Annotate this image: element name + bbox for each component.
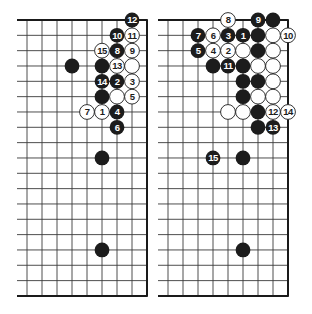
diagram-left: 121011158913142357146: [17, 13, 148, 296]
black-stone: [206, 59, 221, 74]
stone-circle: [251, 74, 266, 89]
white-stone: [266, 28, 281, 43]
black-stone: [95, 89, 110, 104]
stone-circle: [95, 243, 110, 258]
move-number: 12: [268, 106, 278, 117]
move-number: 7: [85, 106, 90, 117]
move-number: 14: [97, 76, 108, 87]
black-stone: [95, 59, 110, 74]
move-number: 3: [130, 76, 135, 87]
black-stone: [251, 28, 266, 43]
white-stone: 5: [125, 89, 140, 104]
stone-circle: [266, 89, 281, 104]
black-stone: 7: [191, 28, 206, 43]
black-stone: 2: [110, 74, 125, 89]
black-stone: [236, 89, 251, 104]
black-stone: 1: [236, 28, 251, 43]
white-stone: 13: [110, 59, 125, 74]
stone-circle: [236, 59, 251, 74]
white-stone: 15: [95, 43, 110, 58]
black-stone: 15: [206, 151, 221, 166]
stone-circle: [95, 59, 110, 74]
move-number: 9: [256, 14, 261, 25]
white-stone: [251, 89, 266, 104]
black-stone: [266, 13, 281, 28]
stone-circle: [266, 74, 281, 89]
move-number: 6: [211, 30, 216, 41]
black-stone: 5: [191, 43, 206, 58]
stone-circle: [236, 243, 251, 258]
stone-circle: [95, 151, 110, 166]
stone-circle: [236, 105, 251, 120]
white-stone: 1: [95, 105, 110, 120]
white-stone: 4: [206, 43, 221, 58]
black-stone: [251, 120, 266, 135]
go-board-figure: 121011158913142357146 897631105421112141…: [0, 0, 312, 314]
move-number: 15: [208, 152, 219, 163]
move-number: 3: [226, 30, 231, 41]
stone-circle: [251, 105, 266, 120]
black-stone: [236, 243, 251, 258]
black-stone: [95, 151, 110, 166]
white-stone: [110, 89, 125, 104]
diagram-right: 897631105421112141315: [158, 13, 295, 296]
black-stone: 14: [95, 74, 110, 89]
black-stone: [236, 74, 251, 89]
black-stone: [95, 243, 110, 258]
move-number: 2: [115, 76, 120, 87]
stone-circle: [266, 13, 281, 28]
black-stone: 13: [266, 120, 281, 135]
move-number: 13: [112, 60, 122, 71]
black-stone: [65, 59, 80, 74]
white-stone: 2: [221, 43, 236, 58]
black-stone: 9: [251, 13, 266, 28]
stone-circle: [251, 120, 266, 135]
stone-circle: [251, 28, 266, 43]
white-stone: [125, 59, 140, 74]
white-stone: 9: [125, 43, 140, 58]
black-stone: 6: [110, 120, 125, 135]
stone-circle: [236, 151, 251, 166]
black-stone: 10: [110, 28, 125, 43]
black-stone: 3: [221, 28, 236, 43]
black-stone: [251, 74, 266, 89]
stone-circle: [236, 43, 251, 58]
stone-circle: [110, 89, 125, 104]
stone-circle: [125, 59, 140, 74]
black-stone: 12: [125, 13, 140, 28]
black-stone: [251, 105, 266, 120]
stone-circle: [266, 43, 281, 58]
white-stone: 12: [266, 105, 281, 120]
white-stone: 11: [125, 28, 140, 43]
white-stone: 7: [80, 105, 95, 120]
white-stone: 3: [125, 74, 140, 89]
stone-circle: [221, 105, 236, 120]
go-diagrams: 121011158913142357146 897631105421112141…: [0, 0, 312, 314]
white-stone: 6: [206, 28, 221, 43]
move-number: 13: [268, 122, 278, 133]
white-stone: 14: [281, 105, 296, 120]
white-stone: [251, 59, 266, 74]
white-stone: 8: [221, 13, 236, 28]
white-stone: 10: [281, 28, 296, 43]
stone-circle: [251, 59, 266, 74]
move-number: 12: [127, 14, 137, 25]
white-stone: [266, 43, 281, 58]
move-number: 8: [226, 14, 231, 25]
black-stone: 8: [110, 43, 125, 58]
black-stone: 11: [221, 59, 236, 74]
stone-circle: [206, 59, 221, 74]
stone-circle: [236, 74, 251, 89]
move-number: 7: [196, 30, 201, 41]
move-number: 9: [130, 45, 135, 56]
stone-circle: [65, 59, 80, 74]
stone-circle: [95, 89, 110, 104]
move-number: 14: [283, 106, 294, 117]
black-stone: 4: [110, 105, 125, 120]
white-stone: [266, 74, 281, 89]
stone-circle: [236, 89, 251, 104]
stone-circle: [251, 43, 266, 58]
white-stone: [266, 59, 281, 74]
stone-circle: [266, 59, 281, 74]
black-stone: [236, 151, 251, 166]
